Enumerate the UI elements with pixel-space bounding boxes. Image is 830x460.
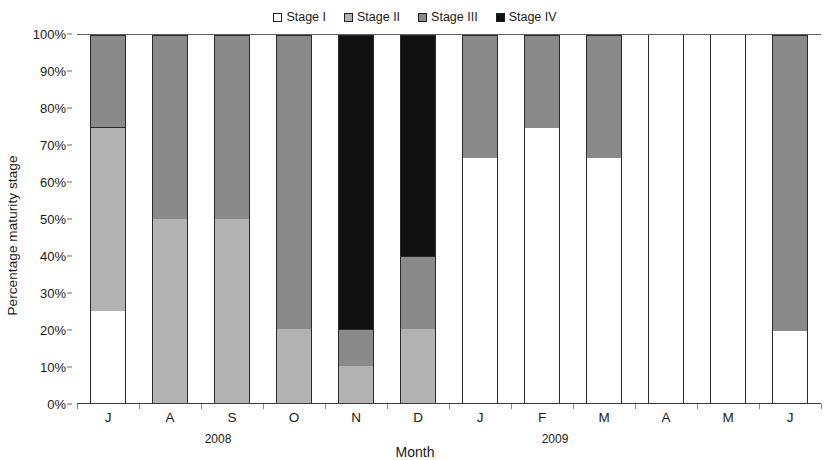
x-axis-tick-label: S — [214, 410, 250, 425]
y-axis-tick-label: 30% — [40, 286, 66, 301]
y-axis-title: Percentage maturity stage — [2, 86, 22, 386]
legend-label-stage-4: Stage IV — [509, 11, 557, 24]
x-axis-tick-mark — [573, 404, 574, 409]
bar-stack — [276, 35, 312, 403]
legend-swatch-stage-4 — [496, 13, 505, 22]
bar-column[interactable] — [772, 35, 808, 403]
y-axis-tick-mark — [67, 330, 72, 331]
bar-stack — [710, 35, 746, 403]
x-axis-tick-mark — [635, 404, 636, 409]
x-axis-tick-mark — [77, 404, 78, 409]
chart-legend: Stage I Stage II Stage III Stage IV — [0, 8, 830, 26]
bar-column[interactable] — [152, 35, 188, 403]
bar-segment — [587, 35, 621, 158]
bar-segment — [649, 35, 683, 403]
bar-column[interactable] — [90, 35, 126, 403]
bar-segment — [339, 366, 373, 403]
bar-segment — [339, 35, 373, 329]
bar-segment — [525, 35, 559, 128]
bar-stack — [152, 35, 188, 403]
bar-segment — [463, 158, 497, 403]
legend-label-stage-2: Stage II — [357, 11, 400, 24]
bar-group-container — [77, 35, 821, 403]
x-axis-tick-mark — [821, 404, 822, 409]
bar-stack — [90, 35, 126, 403]
x-axis-tick-label: M — [586, 410, 622, 425]
legend-entry-stage-1: Stage I — [273, 11, 326, 24]
x-axis-tick-mark — [697, 404, 698, 409]
legend-entry-stage-2: Stage II — [344, 11, 400, 24]
y-axis-tick-label: 80% — [40, 101, 66, 116]
bar-segment — [153, 219, 187, 403]
y-axis-tick-label: 10% — [40, 360, 66, 375]
bar-column[interactable] — [462, 35, 498, 403]
x-axis-tick-label: J — [90, 410, 126, 425]
bar-segment — [91, 311, 125, 403]
x-axis-tick-mark — [325, 404, 326, 409]
y-axis-tick-mark — [67, 367, 72, 368]
legend-swatch-stage-3 — [418, 13, 427, 22]
bar-segment — [339, 329, 373, 366]
stacked-bar-chart: Percentage maturity stage 0%10%20%30%40%… — [0, 26, 830, 453]
x-axis-tick-label: F — [524, 410, 560, 425]
x-axis-tick-label: J — [772, 410, 808, 425]
y-axis-tick-mark — [67, 71, 72, 72]
y-axis-tick-label: 90% — [40, 64, 66, 79]
bar-segment — [711, 35, 745, 403]
x-axis-tick-label: N — [338, 410, 374, 425]
y-axis-tick-labels: 0%10%20%30%40%50%60%70%80%90%100% — [22, 26, 72, 404]
bar-stack — [586, 35, 622, 403]
bar-stack — [400, 35, 436, 403]
x-axis-tick-mark — [759, 404, 760, 409]
legend-label-stage-1: Stage I — [286, 11, 326, 24]
x-axis-tick-label: O — [276, 410, 312, 425]
bar-column[interactable] — [276, 35, 312, 403]
x-axis-tick-mark — [263, 404, 264, 409]
bar-segment — [587, 158, 621, 403]
y-axis-tick-label: 40% — [40, 249, 66, 264]
bar-segment — [525, 128, 559, 403]
bar-column[interactable] — [338, 35, 374, 403]
bar-column[interactable] — [648, 35, 684, 403]
bar-column[interactable] — [524, 35, 560, 403]
y-axis-title-text: Percentage maturity stage — [5, 86, 20, 386]
y-axis-tick-label: 70% — [40, 138, 66, 153]
bar-segment — [91, 127, 125, 311]
x-axis-tick-label: M — [710, 410, 746, 425]
x-axis-tick-mark — [449, 404, 450, 409]
bar-segment — [773, 35, 807, 331]
bar-stack — [462, 35, 498, 403]
bar-column[interactable] — [214, 35, 250, 403]
y-axis-tick-label: 20% — [40, 323, 66, 338]
x-axis-tick-label: J — [462, 410, 498, 425]
bar-stack — [524, 35, 560, 403]
x-axis-tick-label: A — [648, 410, 684, 425]
bar-segment — [277, 329, 311, 403]
x-axis-tick-mark — [139, 404, 140, 409]
bar-segment — [401, 35, 435, 256]
y-axis-tick-mark — [67, 145, 72, 146]
y-axis-tick-label: 60% — [40, 175, 66, 190]
bar-segment — [91, 35, 125, 127]
legend-swatch-stage-2 — [344, 13, 353, 22]
bar-column[interactable] — [710, 35, 746, 403]
y-axis-tick-label: 100% — [33, 27, 66, 42]
bar-stack — [338, 35, 374, 403]
x-axis-tick-mark — [511, 404, 512, 409]
bar-column[interactable] — [400, 35, 436, 403]
bar-stack — [648, 35, 684, 403]
bar-segment — [215, 219, 249, 403]
y-axis-tick-mark — [67, 256, 72, 257]
legend-entry-stage-3: Stage III — [418, 11, 478, 24]
y-axis-tick-mark — [67, 108, 72, 109]
x-axis-tick-label: A — [152, 410, 188, 425]
y-axis-tick-mark — [67, 182, 72, 183]
y-axis-tick-label: 50% — [40, 212, 66, 227]
plot-area — [77, 34, 821, 404]
bar-segment — [401, 329, 435, 403]
bar-column[interactable] — [586, 35, 622, 403]
y-axis-tick-mark — [67, 219, 72, 220]
bar-stack — [772, 35, 808, 403]
x-axis-tick-label: D — [400, 410, 436, 425]
bar-segment — [401, 256, 435, 330]
